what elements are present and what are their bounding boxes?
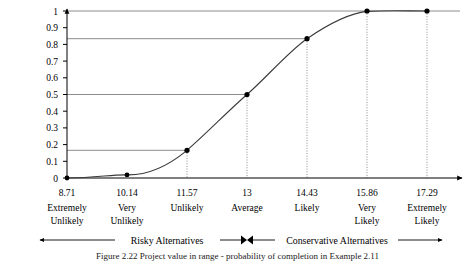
x-tick-word: Extremely — [47, 203, 87, 213]
figure-caption-clip: Figure 2.22 Project value in range - pro… — [0, 253, 475, 262]
x-tick-number: 15.86 — [356, 188, 378, 198]
y-tick-label: 0.3 — [46, 123, 58, 133]
x-axis-numeric-labels: 8.71 10.14 11.57 13 14.43 15.86 17.29 — [59, 188, 438, 198]
risky-alternatives-label: Risky Alternatives — [131, 235, 204, 246]
x-axis-verbal-labels: Extremely Unlikely Very Unlikely Unlikel… — [47, 203, 447, 226]
data-point — [304, 36, 309, 41]
x-tick-number: 14.43 — [296, 188, 318, 198]
x-tick-word: Average — [231, 203, 262, 213]
x-tick-word: Very — [118, 203, 136, 213]
x-tick-word: Unlikely — [50, 216, 83, 226]
x-tick-word: Unlikely — [110, 216, 143, 226]
probability-s-curve-chart: 1 0.9 0.8 0.7 0.6 0.5 0.4 0.3 0.2 0.1 0 … — [0, 0, 475, 262]
y-tick-label: 0.7 — [46, 57, 58, 67]
horizontal-gridlines — [67, 11, 460, 150]
data-point — [364, 8, 369, 13]
figure-caption: Figure 2.22 Project value in range - pro… — [0, 253, 475, 261]
x-tick-word: Extremely — [407, 203, 447, 213]
y-axis-tick-labels: 1 0.9 0.8 0.7 0.6 0.5 0.4 0.3 0.2 0.1 0 — [46, 7, 58, 184]
x-tick-number: 17.29 — [416, 188, 438, 198]
y-tick-marks — [63, 11, 67, 178]
data-point — [244, 92, 249, 97]
data-point — [125, 173, 130, 178]
data-point — [65, 176, 70, 181]
y-tick-label: 0.6 — [46, 73, 58, 83]
y-tick-label: 0 — [53, 174, 58, 184]
x-tick-number: 8.71 — [59, 188, 76, 198]
x-tick-word: Very — [358, 203, 376, 213]
data-point — [424, 8, 429, 13]
data-point — [184, 148, 189, 153]
x-tick-word: Unlikely — [170, 203, 203, 213]
conservative-alternatives-band: Conservative Alternatives — [252, 235, 442, 246]
y-tick-label: 0.2 — [46, 140, 58, 150]
x-tick-word: Likely — [415, 216, 440, 226]
y-tick-label: 0.1 — [46, 157, 58, 167]
x-tick-number: 13 — [242, 188, 252, 198]
y-tick-label: 1 — [53, 7, 58, 17]
x-tick-number: 10.14 — [116, 188, 138, 198]
y-tick-label: 0.4 — [46, 107, 58, 117]
figure-container: 1 0.9 0.8 0.7 0.6 0.5 0.4 0.3 0.2 0.1 0 … — [0, 0, 475, 262]
x-tick-number: 11.57 — [176, 188, 197, 198]
conservative-alternatives-label: Conservative Alternatives — [286, 235, 388, 246]
x-tick-word: Likely — [355, 216, 380, 226]
y-tick-label: 0.8 — [46, 40, 58, 50]
risky-alternatives-band: Risky Alternatives — [40, 235, 244, 246]
bowtie-double-arrow-icon — [241, 236, 253, 245]
y-tick-label: 0.5 — [46, 90, 58, 100]
x-tick-word: Likely — [295, 203, 320, 213]
y-tick-label: 0.9 — [46, 23, 58, 33]
